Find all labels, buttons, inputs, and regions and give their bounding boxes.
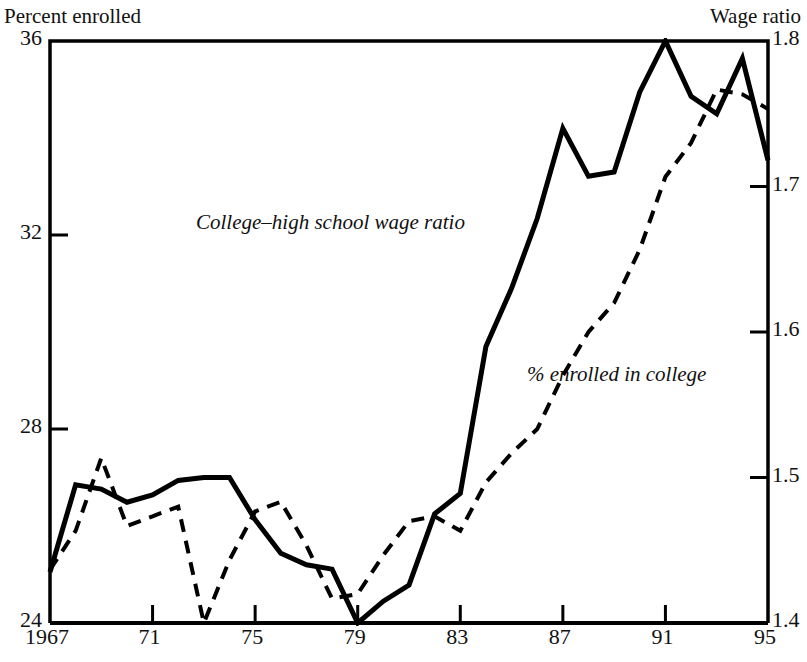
x-axis-tick-87: 87 — [549, 626, 571, 648]
y-axis-right-tick-1-8: 1.8 — [772, 27, 800, 49]
chart-canvas — [47, 38, 771, 626]
x-axis-tick-75: 75 — [241, 626, 263, 648]
y-axis-right-tick-1-5: 1.5 — [772, 464, 800, 486]
x-axis-tick-83: 83 — [446, 626, 468, 648]
right-axis-tick-labels: 1.41.51.61.71.8 — [772, 0, 807, 662]
y-axis-left-tick-28: 28 — [20, 415, 42, 437]
y-axis-left-tick-36: 36 — [20, 27, 42, 49]
plot-frame — [50, 41, 768, 623]
series-line-1 — [50, 41, 768, 623]
y-axis-right-tick-1-4: 1.4 — [772, 609, 800, 631]
x-axis-tick-91: 91 — [651, 626, 673, 648]
left-axis-tick-labels: 24283236 — [0, 0, 42, 662]
y-axis-right-tick-1-6: 1.6 — [772, 318, 800, 340]
x-axis-tick-71: 71 — [139, 626, 161, 648]
plot-area — [47, 38, 765, 620]
x-axis-tick-1967: 1967 — [25, 626, 69, 648]
x-axis-tick-79: 79 — [344, 626, 366, 648]
y-axis-right-tick-1-7: 1.7 — [772, 173, 800, 195]
x-axis-tick-95: 95 — [754, 626, 776, 648]
series-line-2 — [50, 90, 768, 624]
chart-figure: Percent enrolled Wage ratio 24283236 1.4… — [0, 0, 807, 662]
y-axis-left-tick-32: 32 — [20, 221, 42, 243]
